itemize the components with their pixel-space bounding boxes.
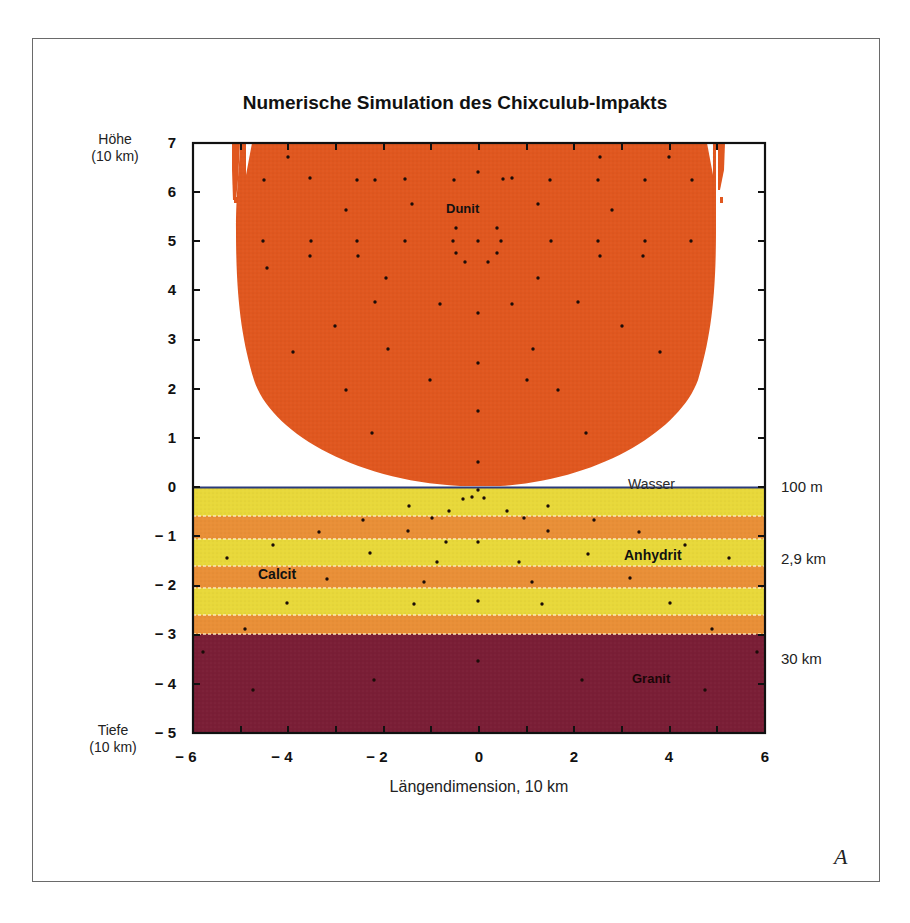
dunite-label: Dunit xyxy=(446,201,480,216)
calcite-label: Calcit xyxy=(258,566,296,582)
granite-label: Granit xyxy=(632,671,671,686)
simulation-plot: Dunit Wasser Anhydrit Calcit Granit xyxy=(0,0,910,923)
water-label: Wasser xyxy=(628,476,675,492)
anhydrite-label: Anhydrit xyxy=(624,547,682,563)
plot-area: Dunit Wasser Anhydrit Calcit Granit xyxy=(193,143,765,733)
